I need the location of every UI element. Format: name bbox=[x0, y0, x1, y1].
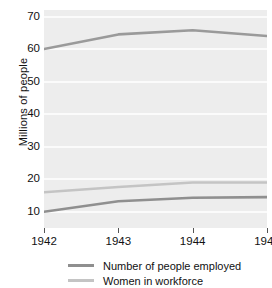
x-tick-label-1944: 1944 bbox=[171, 235, 215, 247]
y-tick-label-10: 10 bbox=[16, 206, 40, 218]
x-tick-label-1943: 1943 bbox=[96, 235, 140, 247]
y-tick-label-40: 40 bbox=[16, 108, 40, 120]
x-axis-tick-labels: 1942194319441945 bbox=[44, 235, 267, 251]
legend-label: Number of people employed bbox=[103, 260, 241, 272]
x-tick-label-1942: 1942 bbox=[22, 235, 66, 247]
series-line-0 bbox=[44, 30, 267, 49]
legend-item-0[interactable]: Number of people employed bbox=[0, 258, 272, 273]
y-tick-label-50: 50 bbox=[16, 76, 40, 88]
x-tick bbox=[193, 228, 194, 233]
x-axis-ticks bbox=[44, 228, 267, 234]
x-tick-label-1945: 1945 bbox=[245, 235, 272, 247]
series-line-1 bbox=[44, 182, 267, 192]
x-tick bbox=[267, 228, 268, 233]
series-lines bbox=[44, 10, 267, 228]
line-chart: Millions of people 10203040506070 194219… bbox=[0, 0, 272, 288]
y-tick-label-30: 30 bbox=[16, 141, 40, 153]
x-tick bbox=[118, 228, 119, 233]
series-line-2 bbox=[44, 197, 267, 212]
y-tick-label-20: 20 bbox=[16, 173, 40, 185]
legend-item-1[interactable]: Women in workforce bbox=[0, 273, 272, 288]
legend-swatch-icon bbox=[68, 279, 94, 282]
y-tick-label-70: 70 bbox=[16, 11, 40, 23]
legend-label: Women in workforce bbox=[103, 275, 203, 287]
chart-legend: Number of people employedWomen in workfo… bbox=[0, 258, 272, 288]
x-tick bbox=[44, 228, 45, 233]
legend-swatch-icon bbox=[68, 264, 94, 267]
y-tick-label-60: 60 bbox=[16, 43, 40, 55]
plot-area bbox=[44, 10, 267, 228]
